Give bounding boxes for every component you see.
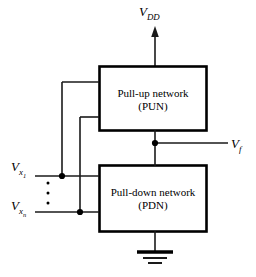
vertical-ellipsis-icon — [47, 182, 50, 205]
vf-label-subscript: f — [239, 144, 241, 154]
vxn-subscript-index: n — [23, 210, 26, 217]
pun-box-line2: (PUN) — [99, 100, 207, 113]
input-rail-xn — [80, 117, 99, 212]
vx1-junction-dot — [59, 173, 65, 179]
vf-label: Vf — [231, 137, 241, 150]
pdn-box-text: Pull-down network (PDN) — [99, 186, 207, 212]
vxn-label-subscript: xn — [19, 206, 26, 216]
pdn-box-line1: Pull-down network — [99, 186, 207, 199]
pun-box-line1: Pull-up network — [99, 87, 207, 100]
vxn-label: Vxn — [11, 199, 26, 214]
cmos-logic-gate-diagram: VDD Vf Vx1 Vxn Pull-up network (PUN) Pul… — [0, 0, 256, 277]
circuit-schematic-svg — [0, 0, 256, 277]
ground-icon — [137, 252, 173, 263]
vxn-junction-dot — [77, 209, 83, 215]
vf-junction-dot — [152, 140, 158, 146]
vx1-subscript-index: 1 — [23, 171, 26, 178]
pun-box-text: Pull-up network (PUN) — [99, 87, 207, 113]
vx1-label-subscript: x1 — [19, 167, 26, 177]
vdd-label: VDD — [139, 5, 160, 18]
vdd-supply-arrow — [151, 26, 159, 66]
vx1-label-prefix: V — [11, 159, 19, 174]
vxn-label-prefix: V — [11, 198, 19, 213]
pdn-box-line2: (PDN) — [99, 199, 207, 212]
vx1-label: Vx1 — [11, 160, 26, 175]
vdd-label-subscript: DD — [147, 12, 160, 22]
vf-label-prefix: V — [231, 136, 239, 151]
vdd-label-prefix: V — [139, 4, 147, 19]
